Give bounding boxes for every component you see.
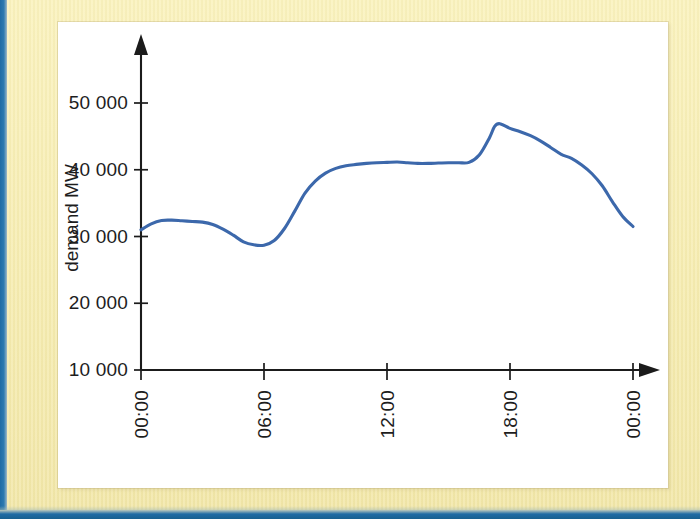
x-axis-tick-labels: 00:0006:0012:0018:0000:00 — [131, 390, 644, 439]
y-tick-label: 10 000 — [69, 359, 128, 380]
x-tick-label: 18:00 — [500, 390, 521, 439]
x-tick-label: 12:00 — [377, 390, 398, 439]
figure-page: 10 00020 00030 00040 00050 000 00:0006:0… — [0, 0, 700, 519]
x-axis-group: 00:0006:0012:0018:0000:00 — [131, 363, 660, 439]
x-tick-label: 00:00 — [131, 390, 152, 439]
demand-line-chart: 10 00020 00030 00040 00050 000 00:0006:0… — [58, 22, 668, 488]
demand-series-line — [141, 124, 633, 246]
scan-edge-left — [0, 0, 7, 519]
x-axis-arrowhead — [639, 363, 660, 377]
x-tick-label: 00:00 — [623, 390, 644, 439]
chart-card: 10 00020 00030 00040 00050 000 00:0006:0… — [58, 22, 668, 488]
y-tick-label: 20 000 — [69, 292, 128, 313]
y-tick-label: 50 000 — [69, 92, 128, 113]
scan-edge-bottom — [0, 510, 700, 519]
x-tick-label: 06:00 — [254, 390, 275, 439]
y-axis-title: demand MW — [61, 164, 82, 272]
x-axis-ticks — [141, 363, 633, 380]
y-axis-arrowhead — [134, 34, 148, 55]
